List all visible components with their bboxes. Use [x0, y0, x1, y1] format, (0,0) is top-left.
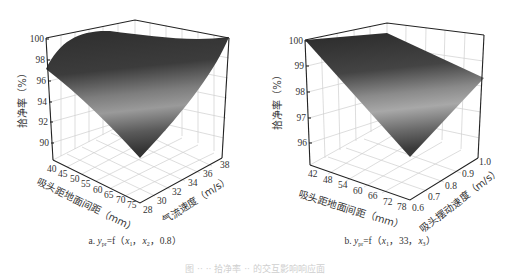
svg-text:96: 96 [298, 138, 308, 148]
chart-a-caption: a. ypr=f（x1，x2，0.8） [88, 235, 181, 247]
svg-text:32: 32 [172, 187, 182, 197]
svg-text:38: 38 [220, 160, 230, 170]
svg-text:100: 100 [30, 34, 45, 44]
svg-text:36: 36 [203, 169, 213, 179]
svg-text:30: 30 [157, 196, 167, 206]
svg-text:34: 34 [188, 178, 198, 188]
figure-caption: 图 ·· ·· 拾净率 ·· 的交互影响响应面 [0, 262, 510, 274]
svg-text:0.6: 0.6 [412, 203, 424, 213]
chart-b: 100 99 98 97 96 拾净率（%） 42 48 54 60 66 72… [271, 23, 502, 247]
svg-text:72: 72 [383, 197, 393, 207]
chart-b-z-label: 拾净率（%） [271, 70, 283, 130]
svg-text:97: 97 [297, 113, 307, 123]
svg-text:100: 100 [289, 36, 304, 46]
chart-b-x-label: 吸头距地面间距（mm） [297, 187, 405, 230]
chart-b-z-ticks: 100 99 98 97 96 [289, 36, 308, 148]
svg-text:66: 66 [368, 191, 378, 201]
svg-text:48: 48 [323, 175, 333, 185]
svg-text:50: 50 [70, 174, 80, 184]
svg-text:54: 54 [338, 180, 348, 190]
svg-text:55: 55 [81, 179, 91, 189]
chart-a-z-label: 拾净率（%） [16, 68, 28, 128]
svg-text:0.7: 0.7 [428, 192, 440, 202]
svg-text:60: 60 [93, 185, 103, 195]
svg-text:78: 78 [397, 202, 407, 212]
svg-text:0.8: 0.8 [445, 181, 457, 191]
svg-text:28: 28 [143, 205, 153, 215]
svg-text:60: 60 [353, 186, 363, 196]
svg-text:98: 98 [36, 55, 46, 65]
svg-text:75: 75 [127, 200, 137, 210]
svg-text:99: 99 [295, 61, 305, 71]
svg-text:98: 98 [296, 87, 306, 97]
chart-a-surface [46, 31, 229, 158]
chart-b-surface [305, 33, 484, 157]
svg-text:70: 70 [116, 195, 126, 205]
svg-text:94: 94 [38, 97, 48, 107]
figure-canvas: 100 98 96 94 92 90 拾净率（%） 40 45 50 55 60… [0, 0, 510, 274]
svg-text:65: 65 [104, 190, 114, 200]
svg-text:0.9: 0.9 [462, 169, 474, 179]
svg-text:96: 96 [37, 76, 47, 86]
svg-text:45: 45 [58, 169, 68, 179]
svg-text:40: 40 [47, 164, 57, 174]
svg-text:42: 42 [308, 169, 318, 179]
chart-b-caption: b. ypr=f（x1，33，x3） [344, 235, 435, 247]
svg-text:1.0: 1.0 [479, 157, 491, 167]
svg-text:92: 92 [39, 117, 49, 127]
chart-a: 100 98 96 94 92 90 拾净率（%） 40 45 50 55 60… [16, 20, 232, 247]
svg-text:90: 90 [40, 138, 50, 148]
